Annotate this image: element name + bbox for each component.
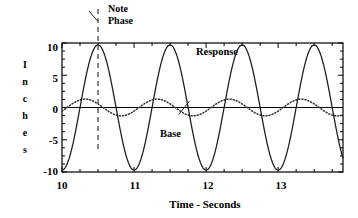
chart-figure: I n c h e s 10 5 0 -5 -10 10 11 12 13 Ti… (0, 0, 358, 218)
annotation-note-phase-leader (89, 11, 98, 21)
plot-area (0, 0, 358, 218)
